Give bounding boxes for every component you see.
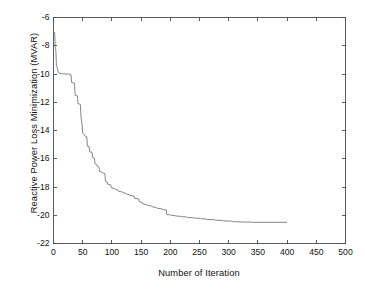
y-tick-label: -14 bbox=[20, 125, 50, 135]
plot-area bbox=[0, 0, 365, 289]
y-tick-label: -22 bbox=[20, 238, 50, 248]
y-tick-label: -20 bbox=[20, 210, 50, 220]
y-tick-label: -10 bbox=[20, 69, 50, 79]
y-tick-label: -16 bbox=[20, 153, 50, 163]
y-tick-label: -18 bbox=[20, 182, 50, 192]
x-tick-label: 500 bbox=[326, 247, 365, 257]
y-tick-label: -6 bbox=[20, 12, 50, 22]
chart-figure: Reactive Power Loss Minimization (MVAR) … bbox=[0, 0, 365, 289]
y-tick-label: -12 bbox=[20, 97, 50, 107]
y-tick-label: -8 bbox=[20, 40, 50, 50]
